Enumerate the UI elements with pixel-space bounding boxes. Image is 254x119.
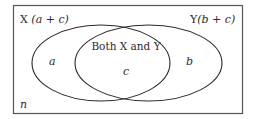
universe-label: n	[20, 98, 27, 111]
region-y-only-label: b	[186, 55, 193, 68]
set-y-label: Y(b + c)	[189, 13, 235, 26]
intersection-label: c	[123, 65, 129, 78]
set-y-ellipse	[75, 25, 222, 101]
venn-diagram: X (a + c) Y(b + c) a Both X and Y c b n	[0, 0, 254, 119]
intersection-title: Both X and Y	[91, 40, 161, 52]
region-x-only-label: a	[49, 55, 56, 68]
set-x-label: X (a + c)	[20, 13, 69, 26]
